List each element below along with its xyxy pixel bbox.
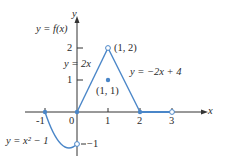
label-fall-equation: y = −2x + 4 (130, 67, 182, 78)
y-axis-label: y (72, 9, 77, 20)
isolated-point (106, 78, 110, 82)
label-point-1-2: (1, 2) (114, 43, 137, 54)
x-axis-arrow-icon (201, 110, 208, 115)
function-label: y = f(x) (36, 24, 68, 35)
y-tick-label-2: 2 (67, 43, 72, 54)
curve-fall (109, 50, 140, 112)
x-tick-label-3: 3 (169, 116, 174, 127)
piecewise-function-graph: x y y = f(x) -1 0 1 2 3 2 1 −1 y = 2x y … (0, 0, 227, 160)
x-tick-label-0: 0 (69, 116, 74, 127)
label-rise-equation: y = 2x (64, 59, 91, 70)
x-tick-label-1: 1 (105, 116, 110, 127)
y-tick-label-neg1: −1 (87, 139, 98, 150)
label-point-1-1: (1, 1) (96, 86, 119, 97)
label-parabola-equation: y = x² − 1 (6, 136, 48, 147)
x-axis-label: x (208, 106, 213, 117)
x-tick-label-2: 2 (137, 116, 142, 127)
y-tick-label-1: 1 (67, 75, 72, 86)
x-tick-label-neg1: -1 (36, 116, 45, 127)
closed-points (43, 78, 142, 114)
